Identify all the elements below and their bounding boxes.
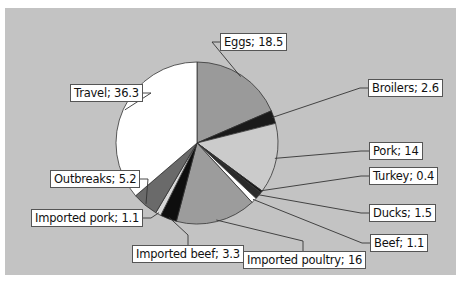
leader-line: [260, 176, 369, 191]
data-label-turkey: Turkey; 0.4: [369, 167, 438, 185]
data-label-imported-poultry: Imported poultry; 16: [243, 251, 366, 269]
data-label-pork: Pork; 14: [369, 142, 423, 160]
leader-line: [275, 151, 369, 158]
leader-line: [253, 199, 370, 243]
leader-line: [272, 88, 368, 118]
data-label-imported-beef: Imported beef; 3.3: [132, 245, 244, 263]
chart-plot-area: Eggs; 18.5Broilers; 2.6Pork; 14Turkey; 0…: [5, 8, 456, 275]
data-label-outbreaks: Outbreaks; 5.2: [50, 170, 140, 188]
data-label-ducks: Ducks; 1.5: [369, 204, 436, 222]
leader-line: [257, 195, 369, 213]
data-label-imported-pork: Imported pork; 1.1: [31, 209, 143, 227]
data-label-eggs: Eggs; 18.5: [220, 33, 287, 51]
data-label-beef: Beef; 1.1: [370, 234, 428, 252]
data-label-travel: Travel; 36.3: [70, 84, 143, 102]
data-label-broilers: Broilers; 2.6: [368, 79, 443, 97]
